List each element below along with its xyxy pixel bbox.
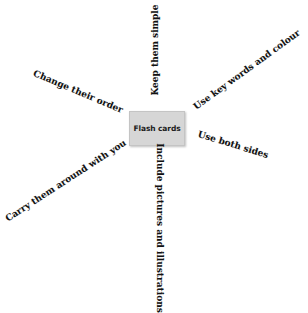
center-node-flash-cards: Flash cards: [129, 111, 185, 146]
spoke-carry-them-around-with-you: Carry them around with you: [4, 139, 128, 224]
spoke-use-both-sides: Use both sides: [197, 130, 270, 160]
spoke-change-their-order: Change their order: [32, 69, 124, 115]
spoke-include-pictures-and-illustrations: Include pictures and illustrations: [155, 143, 164, 313]
spoke-use-key-words-and-colour: Use key words and colour: [192, 28, 302, 111]
center-node-label: Flash cards: [133, 124, 180, 133]
spoke-keep-them-simple: Keep them simple: [151, 4, 160, 95]
